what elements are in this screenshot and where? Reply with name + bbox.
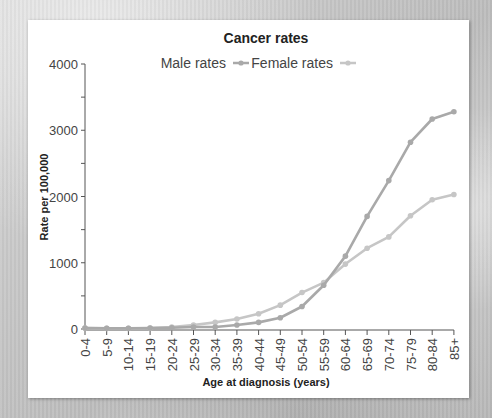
series-line (85, 195, 454, 329)
data-point (299, 304, 305, 310)
data-point (451, 192, 457, 198)
series-female-rates (82, 192, 457, 331)
x-tick-label: 75-79 (404, 338, 419, 371)
legend-item-male: Male rates (161, 55, 249, 71)
chart-title: Cancer rates (224, 30, 309, 46)
data-point (451, 109, 457, 115)
data-point (386, 178, 392, 184)
legend-marker-female (345, 60, 350, 65)
data-point (234, 316, 240, 322)
x-tick-label: 45-49 (273, 338, 288, 371)
y-tick-label: 3000 (49, 123, 78, 138)
y-axis: 01000200030004000 (49, 57, 85, 337)
data-point (299, 290, 305, 296)
data-point (408, 213, 414, 219)
x-tick-label: 40-44 (252, 338, 267, 371)
x-tick-label: 30-34 (208, 338, 223, 371)
x-tick-label: 55-59 (317, 338, 332, 371)
data-point (256, 311, 262, 317)
data-point (82, 325, 88, 331)
x-axis-title: Age at diagnosis (years) (202, 376, 329, 388)
legend-item-female: Female rates (251, 55, 356, 71)
data-point (147, 325, 153, 331)
data-point (429, 197, 435, 203)
data-point (191, 324, 197, 330)
data-point (278, 315, 284, 321)
data-point (212, 324, 218, 330)
x-tick-label: 85+ (447, 338, 462, 360)
legend: Male rates Female rates (161, 55, 356, 71)
x-tick-label: 5-9 (100, 338, 115, 357)
x-tick-label: 60-64 (338, 338, 353, 371)
x-axis: 0-45-910-1415-1920-2425-2930-3435-3940-4… (78, 330, 462, 371)
data-point (256, 320, 262, 326)
data-point (104, 326, 110, 332)
series-lines (82, 109, 457, 331)
y-axis-title: Rate per 100,000 (38, 154, 50, 241)
y-tick-label: 4000 (49, 57, 78, 72)
y-tick-label: 2000 (49, 190, 78, 205)
data-point (321, 282, 327, 288)
x-tick-label: 25-29 (187, 338, 202, 371)
series-male-rates (82, 109, 457, 331)
data-point (169, 325, 175, 331)
data-point (429, 116, 435, 122)
x-tick-label: 65-69 (360, 338, 375, 371)
x-tick-label: 15-19 (143, 338, 158, 371)
x-tick-label: 80-84 (425, 338, 440, 371)
data-point (343, 253, 349, 259)
data-point (364, 214, 370, 220)
data-point (234, 322, 240, 328)
y-tick-label: 1000 (49, 256, 78, 271)
legend-label-male: Male rates (161, 55, 226, 71)
data-point (386, 234, 392, 240)
series-line (85, 112, 454, 329)
x-tick-label: 0-4 (78, 338, 93, 357)
data-point (364, 245, 370, 251)
data-point (126, 326, 132, 332)
y-tick-label: 0 (71, 322, 78, 337)
legend-marker-male (238, 60, 243, 65)
x-tick-label: 50-54 (295, 338, 310, 371)
line-chart: Cancer rates Male rates Female rates 010… (0, 0, 492, 418)
data-point (343, 261, 349, 267)
data-point (408, 139, 414, 145)
x-tick-label: 20-24 (165, 338, 180, 371)
x-tick-label: 70-74 (382, 338, 397, 371)
data-point (278, 302, 284, 308)
legend-label-female: Female rates (251, 55, 333, 71)
x-tick-label: 10-14 (121, 338, 136, 371)
x-tick-label: 35-39 (230, 338, 245, 371)
